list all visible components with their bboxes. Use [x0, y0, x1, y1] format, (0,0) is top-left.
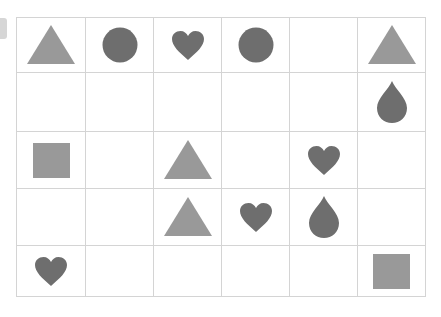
- square-icon: [373, 254, 410, 289]
- grid-cell-r1-c2[interactable]: [86, 18, 154, 73]
- grid-cell-r4-c3[interactable]: [154, 189, 222, 246]
- grid-cell-r3-c3[interactable]: [154, 132, 222, 189]
- grid-cell-r1-c4[interactable]: [222, 18, 290, 73]
- grid-cell-r3-c1[interactable]: [17, 132, 86, 189]
- grid-cell-r1-c5[interactable]: [290, 18, 358, 73]
- grid-cell-r1-c1[interactable]: [17, 18, 86, 73]
- grid-cell-r3-c4[interactable]: [222, 132, 290, 189]
- grid-cell-r5-c3[interactable]: [154, 246, 222, 297]
- triangle-icon: [26, 24, 76, 66]
- grid-cell-r5-c4[interactable]: [222, 246, 290, 297]
- grid-cell-r3-c6[interactable]: [358, 132, 426, 189]
- grid-cell-r1-c6[interactable]: [358, 18, 426, 73]
- grid-cell-r4-c4[interactable]: [222, 189, 290, 246]
- heart-icon: [239, 202, 273, 233]
- triangle-icon: [163, 196, 213, 238]
- grid-cell-r2-c3[interactable]: [154, 73, 222, 132]
- grid-cell-r5-c2[interactable]: [86, 246, 154, 297]
- triangle-icon: [163, 139, 213, 181]
- grid-cell-r5-c1[interactable]: [17, 246, 86, 297]
- drop-icon: [308, 195, 340, 239]
- heart-icon: [307, 145, 341, 176]
- grid-cell-r2-c2[interactable]: [86, 73, 154, 132]
- circle-icon: [238, 27, 274, 63]
- heart-icon: [171, 30, 205, 61]
- grid-cell-r4-c6[interactable]: [358, 189, 426, 246]
- grid-cell-r4-c2[interactable]: [86, 189, 154, 246]
- grid-cell-r5-c5[interactable]: [290, 246, 358, 297]
- heart-icon: [34, 256, 68, 287]
- circle-icon: [102, 27, 138, 63]
- grid-cell-r2-c5[interactable]: [290, 73, 358, 132]
- grid-cell-r3-c2[interactable]: [86, 132, 154, 189]
- drop-icon: [376, 80, 408, 124]
- grid-cell-r2-c6[interactable]: [358, 73, 426, 132]
- side-tab-handle[interactable]: [0, 18, 7, 39]
- square-icon: [33, 143, 70, 178]
- grid-cell-r2-c1[interactable]: [17, 73, 86, 132]
- grid-cell-r5-c6[interactable]: [358, 246, 426, 297]
- shape-grid: [16, 17, 426, 297]
- grid-cell-r3-c5[interactable]: [290, 132, 358, 189]
- grid-cell-r1-c3[interactable]: [154, 18, 222, 73]
- grid-cell-r4-c1[interactable]: [17, 189, 86, 246]
- grid-cell-r2-c4[interactable]: [222, 73, 290, 132]
- grid-cell-r4-c5[interactable]: [290, 189, 358, 246]
- triangle-icon: [367, 24, 417, 66]
